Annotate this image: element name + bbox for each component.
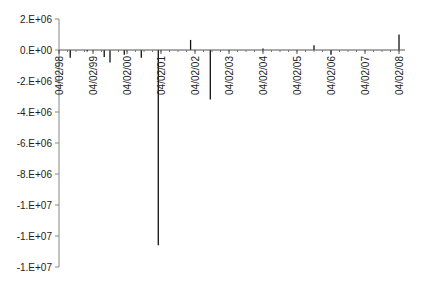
y-tick-label: 2.E+06 — [20, 14, 52, 25]
x-axis: 04/02/9804/02/9904/02/0004/02/0104/02/02… — [54, 50, 405, 95]
y-tick-label: -1.E+07 — [17, 200, 53, 211]
y-tick-label: 0.E+00 — [20, 45, 52, 56]
y-tick-label: -1.E+07 — [17, 262, 53, 273]
x-tick-label: 04/02/98 — [54, 56, 65, 95]
x-tick-label: 04/02/08 — [394, 56, 405, 95]
y-tick-label: -2.E+06 — [17, 76, 53, 87]
x-tick-label: 04/02/04 — [258, 56, 269, 95]
y-tick-label: -1.E+07 — [17, 231, 53, 242]
x-tick-label: 04/02/02 — [190, 56, 201, 95]
y-tick-label: -6.E+06 — [17, 138, 53, 149]
y-tick-label: -8.E+06 — [17, 169, 53, 180]
y-tick-label: -4.E+06 — [17, 107, 53, 118]
x-tick-label: 04/02/06 — [326, 56, 337, 95]
bar-chart: 2.E+060.E+00-2.E+06-4.E+06-6.E+06-8.E+06… — [0, 0, 421, 286]
x-tick-label: 04/02/01 — [156, 56, 167, 95]
x-tick-label: 04/02/99 — [88, 56, 99, 95]
x-tick-label: 04/02/05 — [292, 56, 303, 95]
x-tick-label: 04/02/03 — [224, 56, 235, 95]
x-tick-label: 04/02/07 — [360, 56, 371, 95]
y-axis: 2.E+060.E+00-2.E+06-4.E+06-6.E+06-8.E+06… — [17, 14, 59, 273]
x-tick-label: 04/02/00 — [122, 56, 133, 95]
